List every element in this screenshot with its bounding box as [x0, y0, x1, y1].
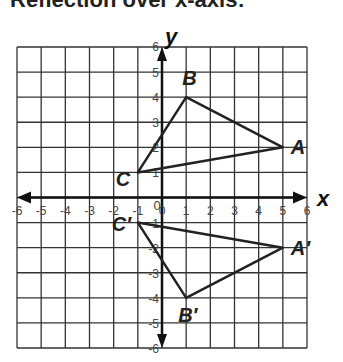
y-tick-label: -4: [148, 292, 159, 306]
x-axis-label: x: [316, 186, 330, 211]
x-tick-label: -1: [132, 204, 143, 218]
vertex-label: B′: [178, 304, 198, 326]
x-axis-left-arrow-icon: [17, 192, 31, 204]
vertex-label: A′: [290, 237, 311, 259]
x-axis-right-arrow-icon: [293, 192, 307, 204]
y-tick-label: -3: [148, 267, 159, 281]
vertex-label: C′: [112, 213, 132, 235]
y-tick-label: 3: [152, 116, 159, 130]
x-tick-label: -5: [36, 204, 47, 218]
y-tick-label: -6: [148, 342, 159, 356]
vertex-label: C: [116, 168, 131, 190]
x-tick-label: -6: [12, 204, 23, 218]
x-tick-label: 5: [279, 204, 286, 218]
y-tick-label: -5: [148, 317, 159, 331]
origin-label: 0: [153, 198, 160, 213]
y-tick-label: 4: [152, 91, 159, 105]
y-tick-label: 5: [152, 66, 159, 80]
x-tick-label: -3: [84, 204, 95, 218]
x-tick-label: 4: [255, 204, 262, 218]
x-tick-label: 1: [183, 204, 190, 218]
y-axis-label: y: [164, 24, 179, 49]
x-tick-label: 2: [207, 204, 214, 218]
y-tick-label: 6: [152, 40, 159, 54]
coordinate-plane: xy-6-5-4-3-2-10123456654321-1-2-3-4-5-60…: [0, 0, 343, 362]
x-tick-label: -4: [60, 204, 71, 218]
vertex-label: A: [290, 136, 305, 158]
x-tick-label: 6: [304, 204, 311, 218]
vertex-label: B: [182, 67, 196, 89]
x-tick-label: 3: [231, 204, 238, 218]
